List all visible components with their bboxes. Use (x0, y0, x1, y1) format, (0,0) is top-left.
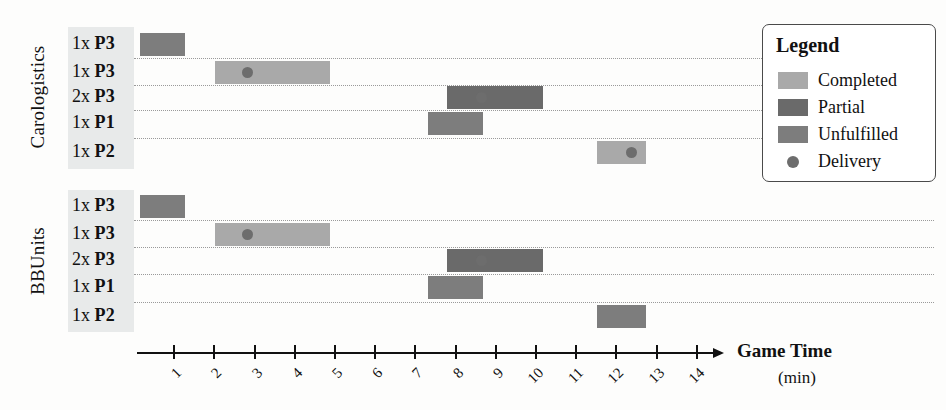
row-label-product: P1 (95, 112, 116, 132)
x-axis-tick (615, 345, 617, 359)
group-name-bbunits: BBUnits (27, 201, 49, 321)
task-bar (597, 305, 645, 328)
row-label-quantity: 1x (72, 141, 90, 161)
row-label: 1x P1 (72, 113, 134, 131)
row-label-quantity: 1x (72, 305, 90, 325)
task-bar (447, 86, 543, 109)
x-axis-tick (495, 345, 497, 359)
row-label-product: P3 (95, 86, 116, 106)
legend-label: Partial (818, 97, 865, 118)
row-label: 1x P3 (72, 62, 134, 80)
delivery-dot (476, 255, 487, 266)
x-axis-tick (334, 345, 336, 359)
task-bar (428, 112, 483, 135)
x-axis-tick (213, 345, 215, 359)
gantt-chart: CarologisticsBBUnits1x P31x P32x P31x P1… (0, 0, 946, 410)
x-axis-tick (254, 345, 256, 359)
x-axis-tick (575, 345, 577, 359)
x-axis-tick (374, 345, 376, 359)
legend-swatch (778, 72, 808, 89)
row-label-product: P2 (95, 141, 116, 161)
row-label: 1x P3 (72, 196, 134, 214)
x-axis-tick (173, 345, 175, 359)
row-label-product: P3 (95, 61, 116, 81)
row-label-quantity: 1x (72, 112, 90, 132)
legend-label: Delivery (818, 151, 881, 172)
delivery-dot (476, 92, 487, 103)
row-label: 1x P3 (72, 34, 134, 52)
row-label: 1x P2 (72, 142, 134, 160)
task-bar (447, 249, 543, 272)
x-axis-line (137, 352, 715, 354)
delivery-dot (242, 229, 253, 240)
task-bar (140, 195, 185, 218)
legend-delivery-dot (787, 156, 799, 168)
x-axis-tick (535, 345, 537, 359)
row-label-product: P3 (95, 223, 116, 243)
x-axis-arrow (713, 348, 724, 358)
row-label-quantity: 1x (72, 33, 90, 53)
legend-label: Completed (818, 70, 897, 91)
task-bar (428, 276, 483, 299)
x-axis-tick (656, 345, 658, 359)
delivery-dot (626, 147, 637, 158)
row-label-product: P3 (95, 33, 116, 53)
legend-swatch (778, 99, 808, 116)
x-axis-tick (696, 345, 698, 359)
task-bar (215, 61, 330, 84)
row-label-quantity: 1x (72, 223, 90, 243)
x-axis-tick (414, 345, 416, 359)
row-label: 1x P3 (72, 224, 134, 242)
row-label-product: P2 (95, 305, 116, 325)
task-bar (215, 223, 330, 246)
row-label-quantity: 1x (72, 61, 90, 81)
delivery-dot (242, 67, 253, 78)
row-label-product: P1 (95, 276, 116, 296)
row-label-quantity: 1x (72, 276, 90, 296)
x-axis-unit: (min) (737, 368, 857, 388)
task-bar (597, 141, 645, 164)
group-name-carologistics: Carologistics (27, 37, 49, 157)
row-label: 1x P2 (72, 306, 134, 324)
task-bar (140, 33, 185, 56)
x-axis-tick (455, 345, 457, 359)
row-label-quantity: 2x (72, 86, 90, 106)
row-label: 2x P3 (72, 87, 134, 105)
row-label-quantity: 2x (72, 249, 90, 269)
row-label: 2x P3 (72, 250, 134, 268)
gridline (134, 220, 934, 221)
x-axis-tick (294, 345, 296, 359)
gridline (134, 274, 934, 275)
row-label-product: P3 (95, 195, 116, 215)
row-label: 1x P1 (72, 277, 134, 295)
legend-swatch (778, 126, 808, 143)
row-label-product: P3 (95, 249, 116, 269)
x-axis-title: Game Time (737, 340, 832, 362)
legend-label: Unfulfilled (818, 124, 898, 145)
row-label-quantity: 1x (72, 195, 90, 215)
legend-title: Legend (776, 34, 839, 57)
gridline (134, 302, 934, 303)
